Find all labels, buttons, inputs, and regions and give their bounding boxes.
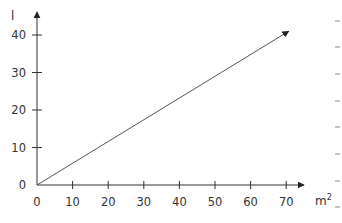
y-tick-label: 30 <box>11 66 26 80</box>
margin-dashes <box>335 21 340 207</box>
x-tick-label: 40 <box>172 195 187 209</box>
x-axis-unit: m <box>315 194 327 208</box>
x-tick-label: 70 <box>279 195 294 209</box>
x-axis-exponent: 2 <box>327 193 332 202</box>
y-axis-label: l <box>11 9 14 23</box>
ticks: 010203040506070010203040 <box>11 28 293 209</box>
y-tick-label: 10 <box>11 141 26 155</box>
y-tick-label: 0 <box>19 178 26 192</box>
line-chart: 010203040506070010203040 l m2 <box>0 0 342 223</box>
data-line <box>37 31 289 185</box>
y-tick-label: 40 <box>11 28 26 42</box>
y-tick-label: 20 <box>11 103 26 117</box>
x-tick-label: 30 <box>136 195 151 209</box>
x-tick-label: 60 <box>243 195 258 209</box>
x-tick-label: 0 <box>33 195 40 209</box>
axes <box>37 12 304 185</box>
x-tick-label: 50 <box>208 195 223 209</box>
x-tick-label: 20 <box>101 195 116 209</box>
x-axis-label: m2 <box>315 193 332 208</box>
data-series <box>37 31 289 185</box>
x-tick-label: 10 <box>65 195 80 209</box>
